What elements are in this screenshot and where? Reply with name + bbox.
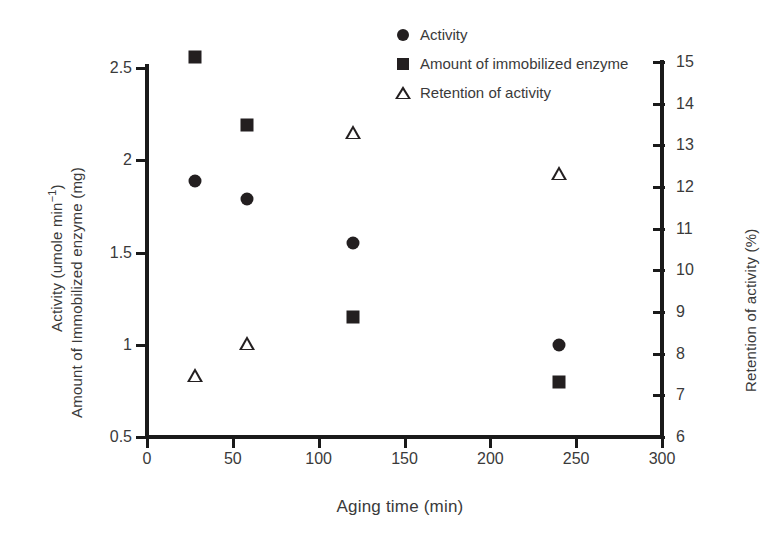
y-left-tick-label: 1.5 <box>110 244 132 262</box>
y-axis-left-title-enzyme: Amount of Immobilized enzyme (mg) <box>68 167 85 418</box>
data-point-square <box>553 375 566 388</box>
legend-item-label: Activity <box>420 26 468 43</box>
y-right-tick <box>653 436 665 439</box>
data-point-square <box>240 119 253 132</box>
x-tick <box>575 439 578 448</box>
x-tick-label: 200 <box>477 450 504 468</box>
x-tick-label: 150 <box>391 450 418 468</box>
y-right-tick <box>653 269 665 272</box>
x-tick-label: 300 <box>649 450 676 468</box>
x-tick-label: 0 <box>143 450 152 468</box>
data-point-triangle <box>551 166 567 180</box>
legend-triangle-icon <box>392 86 414 99</box>
data-point-circle <box>240 192 253 205</box>
legend-square-icon <box>392 58 414 70</box>
x-tick <box>404 439 407 448</box>
y-left-tick-label: 2.5 <box>110 59 132 77</box>
x-tick <box>146 439 149 448</box>
y-right-tick <box>653 394 665 397</box>
y-left-tick <box>136 159 146 162</box>
y-axis-right-line <box>660 60 664 439</box>
y-right-tick-label: 9 <box>676 303 685 321</box>
y-right-tick-label: 13 <box>676 136 694 154</box>
x-tick-label: 250 <box>563 450 590 468</box>
y-right-tick-label: 10 <box>676 261 694 279</box>
y-right-tick-label: 11 <box>676 220 693 238</box>
data-point-circle <box>347 237 360 250</box>
y-left-tick-label: 2 <box>123 151 132 169</box>
y-right-tick <box>653 353 665 356</box>
y-right-tick <box>653 186 665 189</box>
x-tick <box>232 439 235 448</box>
x-tick <box>661 439 664 448</box>
y-left-tick <box>136 436 146 439</box>
legend-circle-icon <box>392 29 414 41</box>
x-tick-label: 100 <box>305 450 332 468</box>
data-point-triangle <box>239 336 255 350</box>
y-right-tick-label: 12 <box>676 178 694 196</box>
data-point-square <box>347 311 360 324</box>
y-right-tick <box>653 144 665 147</box>
y-left-tick-label: 1 <box>123 336 132 354</box>
data-point-circle <box>553 338 566 351</box>
data-point-triangle <box>345 125 361 139</box>
y-axis-left-title-activity: Activity (umole min−1) <box>46 184 65 332</box>
legend-item-label: Retention of activity <box>420 84 551 101</box>
x-axis-title: Aging time (min) <box>337 497 464 517</box>
y-right-tick-label: 7 <box>676 386 685 404</box>
legend-item-label: Amount of immobilized enzyme <box>420 55 628 72</box>
chart-figure: Activity (umole min−1) Amount of Immobil… <box>0 0 782 546</box>
y-right-tick-label: 6 <box>676 428 685 446</box>
x-tick-label: 50 <box>224 450 242 468</box>
data-point-triangle <box>187 368 203 382</box>
y-axis-right-title: Retention of activity (%) <box>742 229 759 392</box>
y-left-tick <box>136 252 146 255</box>
y-left-tick-label: 0.5 <box>110 428 132 446</box>
data-point-circle <box>189 174 202 187</box>
legend-item: Activity <box>392 20 692 49</box>
y-right-tick <box>653 228 665 231</box>
y-right-tick <box>653 311 665 314</box>
legend: ActivityAmount of immobilized enzymeRete… <box>392 20 692 107</box>
data-point-square <box>189 50 202 63</box>
y-left-tick <box>136 344 146 347</box>
y-left-tick <box>136 67 146 70</box>
x-tick <box>489 439 492 448</box>
legend-item: Retention of activity <box>392 78 692 107</box>
y-right-tick-label: 8 <box>676 345 685 363</box>
legend-item: Amount of immobilized enzyme <box>392 49 692 78</box>
x-tick <box>318 439 321 448</box>
